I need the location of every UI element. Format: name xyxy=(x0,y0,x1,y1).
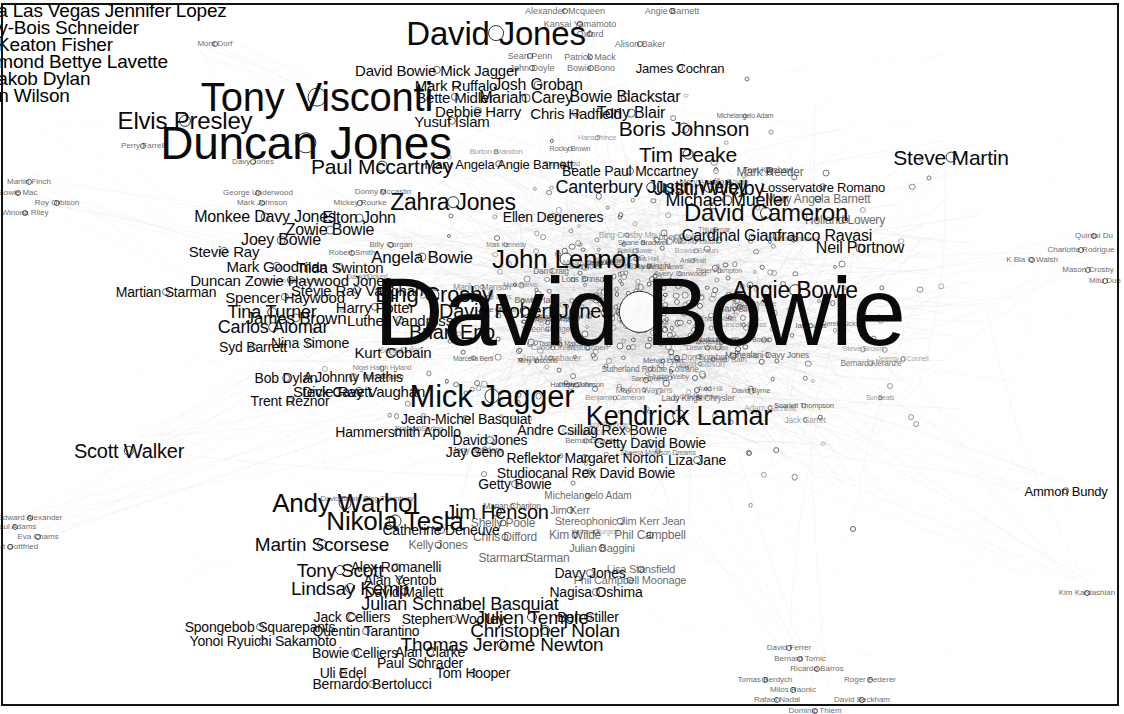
graph-label[interactable]: Mark Ruffalo xyxy=(415,78,497,93)
graph-label-minor[interactable]: David Ockerl xyxy=(346,273,387,281)
graph-label-minor[interactable]: Sean Penn xyxy=(508,52,553,61)
graph-label-minor[interactable]: Jose Marlon xyxy=(478,306,519,314)
graph-label-minor[interactable]: Patrick Mack xyxy=(564,53,616,62)
graph-label[interactable]: Ellen Degeneres xyxy=(503,210,604,224)
graph-label[interactable]: Steve Martin xyxy=(893,147,1008,168)
graph-label-minor[interactable]: Jonathan Chatman xyxy=(766,236,819,243)
graph-label-minor[interactable]: Bernard Aleranze xyxy=(841,359,902,367)
graph-label[interactable]: David Mallett xyxy=(365,585,443,599)
graph-label-minor[interactable]: Michelangelo Adam xyxy=(717,113,774,120)
graph-label-minor[interactable]: Nigel Haigh Hyland xyxy=(353,364,412,371)
graph-label-minor[interactable]: Dean Cutler xyxy=(559,382,594,389)
graph-label-minor[interactable]: Tom Kershaw xyxy=(743,166,792,175)
graph-label-minor[interactable]: Jerry Sanders xyxy=(452,446,502,454)
graph-label-minor[interactable]: Alexander Mcqueen xyxy=(525,7,605,16)
graph-label-minor[interactable]: Edward Alexander xyxy=(0,514,62,522)
graph-label-minor[interactable]: Marilyn Manson xyxy=(453,283,511,292)
graph-label-minor[interactable]: Thiu Brnar xyxy=(698,226,730,233)
graph-label-minor[interactable]: David Ferrer xyxy=(767,644,811,652)
graph-label-minor[interactable]: Eva Chams xyxy=(17,533,58,541)
graph-label-minor[interactable]: Quintoi Du xyxy=(1075,232,1113,240)
graph-label-minor[interactable]: Franco Spring xyxy=(395,425,443,433)
graph-label-minor[interactable]: Mitu Due xyxy=(1089,277,1121,285)
graph-label-minor[interactable]: Mark Lennox David Bowie xyxy=(696,337,769,344)
graph-label[interactable]: Tom Hooper xyxy=(436,666,510,680)
graph-label-minor[interactable]: Bernard Sauder xyxy=(565,437,619,445)
graph-label[interactable]: Nina Simone xyxy=(271,336,349,350)
graph-label-minor[interactable]: Roy Orbison xyxy=(35,199,79,207)
graph-label-minor[interactable]: Bernard Tomic xyxy=(774,655,825,663)
graph-label-minor[interactable]: Ruth Collins Hall xyxy=(613,256,658,263)
graph-label-minor[interactable]: Adam Gilchrist xyxy=(744,404,796,412)
graph-label-minor[interactable]: Jack Garret xyxy=(784,416,825,424)
graph-label-minor[interactable]: Marcella Berti xyxy=(453,355,493,362)
graph-label-minor[interactable]: George Underwood xyxy=(223,189,293,197)
graph-label[interactable]: Josh Groban xyxy=(493,77,582,93)
graph-label-minor[interactable]: Drew Warden xyxy=(686,344,727,351)
graph-label-minor[interactable]: Bowie Mac xyxy=(0,189,38,197)
graph-label-minor[interactable]: Gilbert Gottfried xyxy=(0,543,38,551)
graph-label-minor[interactable]: Hans Prince xyxy=(578,134,617,142)
graph-label-minor[interactable]: Chris Difford xyxy=(473,531,537,543)
graph-label-minor[interactable]: Rhys Ahmad xyxy=(544,161,580,168)
graph-label-minor[interactable]: Mickey Rourke xyxy=(334,199,387,207)
graph-label-minor[interactable]: Phil Campbell Moonage xyxy=(574,575,687,586)
graph-label-minor[interactable]: David Bowie Oleg Thornbury xyxy=(321,495,414,503)
graph-label[interactable]: Ammon Bundy xyxy=(1024,485,1107,498)
graph-label-minor[interactable]: Paul Adams xyxy=(0,523,36,531)
graph-label-minor[interactable]: Lincoln Brass xyxy=(722,321,767,329)
graph-label-minor[interactable]: Abbey Wells xyxy=(653,233,699,242)
graph-label-minor[interactable]: Alison Baker xyxy=(615,40,666,49)
graph-label-minor[interactable]: Burton Brandon xyxy=(469,148,522,156)
graph-label-minor[interactable]: Billy Corgan xyxy=(369,241,412,249)
graph-label[interactable]: Ben Stiller xyxy=(557,610,619,624)
graph-label-minor[interactable]: Kansai Yamamoto xyxy=(544,20,617,29)
graph-label[interactable]: Nagisa Oshima xyxy=(549,585,642,599)
graph-label-minor[interactable]: Oxford xyxy=(576,30,603,39)
graph-label-minor[interactable]: Mary Angela Bowie xyxy=(679,178,748,187)
graph-label-minor[interactable]: Gary Stiff xyxy=(718,305,751,314)
graph-label-minor[interactable]: Shelly Poole xyxy=(471,517,535,529)
graph-label-minor[interactable]: Tony Wright xyxy=(627,262,671,271)
graph-label-minor[interactable]: Peter Frampton xyxy=(696,267,742,274)
graph-label-minor[interactable]: Mark Johnson xyxy=(237,199,287,207)
graph-label[interactable]: Bowie Blackstar xyxy=(570,89,681,105)
graph-label-minor[interactable]: Donny Mccaslin xyxy=(355,188,411,196)
graph-label-minor[interactable]: Tasquira Matos xyxy=(538,341,581,348)
graph-label-minor[interactable]: Anthony Burgess xyxy=(573,529,620,536)
graph-label[interactable]: David Bowie Mick Jagger xyxy=(355,63,519,78)
graph-label[interactable]: Martian Starman xyxy=(116,285,216,299)
graph-label-minor[interactable]: Kim Kardashian xyxy=(1059,589,1115,597)
graph-label[interactable]: Neil Portnow xyxy=(816,240,904,256)
graph-label-minor[interactable]: Angie Barnett xyxy=(645,7,700,16)
graph-label-minor[interactable]: Luciano Bath xyxy=(703,356,746,364)
graph-label[interactable]: James Cochran xyxy=(636,62,724,75)
graph-label-minor[interactable]: K Bla O Walsh xyxy=(1006,256,1058,264)
graph-label-minor[interactable]: Bowie Bono xyxy=(567,64,615,73)
graph-label[interactable]: James Brown xyxy=(246,310,347,327)
graph-label-minor[interactable]: Davy Jones xyxy=(232,158,274,166)
graph-label-minor[interactable]: Steve Brown xyxy=(842,345,883,353)
graph-label[interactable]: Stevie Ray xyxy=(189,244,260,259)
graph-label[interactable]: Martin Scorsese xyxy=(255,535,389,554)
graph-label-minor[interactable]: Roger Federer xyxy=(844,676,896,684)
graph-label-minor[interactable]: Jim Kerr xyxy=(550,505,589,516)
graph-label-minor[interactable]: David Byrne xyxy=(732,387,771,395)
graph-label-minor[interactable]: Rocky Brown xyxy=(550,145,591,152)
graph-label-minor[interactable]: Milos Raonic xyxy=(770,686,816,694)
graph-label[interactable]: Beatle Paul Mccartney xyxy=(562,164,698,178)
graph-label[interactable]: Luther Vandross xyxy=(347,313,453,328)
graph-label-minor[interactable]: Sheena Brigen xyxy=(522,325,575,333)
graph-label-minor[interactable]: Mark Kennedy xyxy=(486,242,526,249)
graph-label-minor[interactable]: Benjamin Cameron xyxy=(585,394,644,401)
graph-label-minor[interactable]: Sharon Osbourne xyxy=(263,277,318,284)
graph-label[interactable]: Trent Reznor xyxy=(251,394,330,408)
graph-label-minor[interactable]: Mary Angela Barnett xyxy=(766,193,871,205)
graph-label-clipped[interactable]: nn Wilson xyxy=(0,86,70,105)
graph-label-minor[interactable]: Martin Finch xyxy=(7,178,51,186)
graph-label-minor[interactable]: John Doyle xyxy=(509,64,554,73)
graph-label-minor[interactable]: Bowie Braun xyxy=(674,247,718,255)
graph-label-minor[interactable]: Bing Crosby Mc xyxy=(599,231,655,239)
graph-label-minor[interactable]: Sheena Morrison Dreams xyxy=(620,449,695,456)
graph-label-minor[interactable]: Stereophonic Jim Kerr Jean xyxy=(555,516,686,527)
